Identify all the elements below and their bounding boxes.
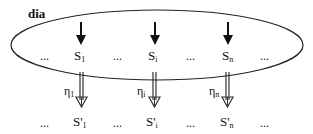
- node-si: Si: [148, 48, 157, 64]
- bottom-ellipsis-2: ...: [113, 116, 122, 131]
- eta-n-label: ηn: [209, 84, 219, 99]
- node-sn-prime: S'n: [220, 114, 234, 130]
- bottom-ellipsis-3: ...: [186, 116, 195, 131]
- transition-arrow-i: [149, 72, 160, 107]
- bottom-ellipsis-1: ...: [40, 116, 49, 131]
- node-s1-prime: S'1: [73, 114, 87, 130]
- top-ellipsis-4: ...: [260, 49, 269, 64]
- input-arrow-n: [223, 22, 233, 45]
- node-s1: S1: [74, 48, 85, 64]
- bottom-ellipsis-4: ...: [260, 116, 269, 131]
- top-ellipsis-2: ...: [113, 49, 122, 64]
- dia-ellipse: [11, 10, 303, 80]
- input-arrow-i: [150, 22, 160, 45]
- input-arrow-1: [76, 22, 86, 45]
- node-si-prime: S'i: [146, 114, 158, 130]
- transition-arrow-1: [76, 72, 87, 107]
- node-sn: Sn: [222, 48, 233, 64]
- eta-i-label: ηi: [137, 84, 146, 99]
- top-ellipsis-3: ...: [186, 49, 195, 64]
- eta-1-label: η1: [64, 84, 74, 99]
- diagram-title: dia: [28, 6, 45, 22]
- transition-arrow-n: [222, 72, 233, 107]
- top-ellipsis-1: ...: [40, 49, 49, 64]
